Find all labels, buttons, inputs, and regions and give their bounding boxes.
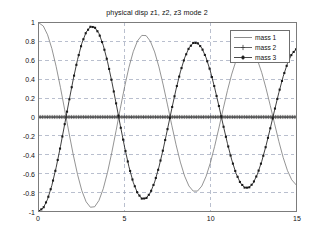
y-tick-label: -1 xyxy=(1,209,35,216)
y-tick-label: 0 xyxy=(1,114,35,121)
y-tick-label: 1 xyxy=(1,19,35,26)
y-tick-label: -0.8 xyxy=(1,190,35,197)
y-tick-label: -0.6 xyxy=(1,171,35,178)
y-tick-label: -0.4 xyxy=(1,152,35,159)
chart-legend[interactable]: mass 1mass 2mass 3 xyxy=(230,30,290,63)
legend-label: mass 2 xyxy=(255,43,276,52)
y-tick-label: 0.8 xyxy=(1,38,35,45)
chart-figure: physical disp z1, z2, z3 mode 2 10.80.60… xyxy=(0,0,314,244)
x-axis-tick-labels: 051015 xyxy=(38,215,297,229)
x-tick-label: 5 xyxy=(122,215,126,222)
legend-swatch-none-icon xyxy=(233,33,253,42)
y-tick-label: 0.4 xyxy=(1,76,35,83)
x-tick-label: 0 xyxy=(36,215,40,222)
legend-item-mass-3[interactable]: mass 3 xyxy=(233,52,287,62)
legend-label: mass 1 xyxy=(255,33,276,42)
series-mass-2 xyxy=(39,115,296,119)
chart-title: physical disp z1, z2, z3 mode 2 xyxy=(0,8,314,17)
legend-swatch-plus-icon xyxy=(233,43,253,52)
y-tick-label: -0.2 xyxy=(1,133,35,140)
legend-item-mass-2[interactable]: mass 2 xyxy=(233,42,287,52)
y-tick-label: 0.6 xyxy=(1,57,35,64)
legend-label: mass 3 xyxy=(255,53,276,62)
y-tick-label: 0.2 xyxy=(1,95,35,102)
legend-swatch-filled-icon xyxy=(233,53,253,62)
y-axis-tick-labels: 10.80.60.40.20-0.2-0.4-0.6-0.8-1 xyxy=(0,22,35,212)
x-tick-label: 10 xyxy=(207,215,215,222)
x-tick-label: 15 xyxy=(293,215,301,222)
legend-item-mass-1[interactable]: mass 1 xyxy=(233,32,287,42)
